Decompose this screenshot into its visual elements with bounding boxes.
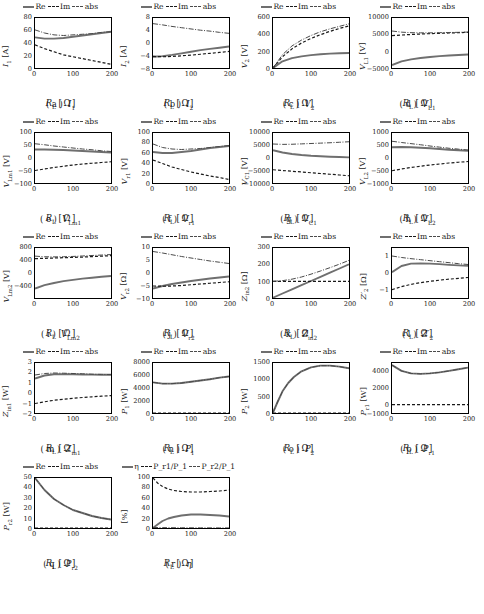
legend-swatch-dashed-icon <box>286 121 297 122</box>
subplot-j: ReImabsVr2 [Ω]−10−505100100200RL [ Ω ]( … <box>118 230 239 345</box>
legend-swatch-dashed-icon <box>48 236 59 237</box>
legend-p: ReImabs <box>357 345 478 358</box>
legend-label: Im <box>60 2 70 11</box>
x-tick-label: 100 <box>185 416 198 423</box>
x-tick-label: 200 <box>106 416 119 423</box>
legend-label: P_r2/P_1 <box>202 462 236 471</box>
y-tick-label: 1000 <box>372 129 389 136</box>
legend-entry-1: Re <box>23 2 46 11</box>
legend-entry-2: P_r1/P_1 <box>141 462 187 471</box>
subplot-caption-o: ( o ) P2 <box>238 444 359 456</box>
legend-entry-1: Re <box>23 232 46 241</box>
legend-i: ReImabs <box>0 230 121 243</box>
legend-d: ReImabs <box>357 0 478 13</box>
legend-entry-2: Im <box>48 232 71 241</box>
y-tick-label: 400 <box>19 257 32 264</box>
x-tick-label: 200 <box>224 531 237 538</box>
legend-label: Im <box>298 232 308 241</box>
x-ticks-a: 0100200 <box>34 70 112 80</box>
legend-entry-1: η <box>122 462 139 471</box>
subplot-b: ReImabsI2 [A]−8−40480100200RL [ Ω ]( b )… <box>118 0 239 115</box>
legend-entry-2: Im <box>48 347 71 356</box>
x-tick-label: 100 <box>67 531 80 538</box>
legend-entry-2: Im <box>48 462 71 471</box>
y-tick-label: 200 <box>257 261 270 268</box>
legend-l: ReImabs <box>357 230 478 243</box>
subplot-c: ReImabsV2 [V]02004006000100200RL [ Ω ]( … <box>238 0 359 115</box>
legend-entry-1: Re <box>23 117 46 126</box>
y-ticks-b: −8−4048 <box>118 17 152 69</box>
legend-entry-2: Im <box>286 117 309 126</box>
x-ticks-i: 0100200 <box>34 300 112 310</box>
x-tick-label: 100 <box>424 301 437 308</box>
x-tick-label: 0 <box>389 186 393 193</box>
x-tick-label: 200 <box>224 416 237 423</box>
subplot-caption-b: ( b ) I2 <box>118 99 239 111</box>
y-tick-label: −2 <box>22 411 32 418</box>
y-tick-label: 800 <box>19 244 32 251</box>
axes-frame-l <box>391 247 469 299</box>
legend-r: ηP_r1/P_1P_r2/P_1 <box>118 460 239 473</box>
legend-swatch-dashdot-icon <box>310 121 321 122</box>
legend-entry-1: Re <box>261 347 284 356</box>
plot-area-d: VL1 [V]−500005000100000100200RL [ Ω ] <box>357 13 478 85</box>
y-tick-label: 40 <box>142 160 150 167</box>
y-tick-label: −5000 <box>367 66 389 73</box>
legend-label: Im <box>60 117 70 126</box>
y-tick-label: 0 <box>385 48 389 55</box>
x-tick-label: 0 <box>32 416 36 423</box>
plot-area-r: [%]0204060801000100200RL [ Ω ] <box>118 473 239 545</box>
subplot-m: ReImabsZin1 [W]−2−101230100200RL [ Ω ]( … <box>0 345 121 460</box>
subplot-caption-k: ( k ) Zin2 <box>238 329 359 341</box>
x-tick-label: 200 <box>344 416 357 423</box>
axes-frame-j <box>152 247 230 299</box>
y-tick-label: 10 <box>24 515 32 522</box>
legend-entry-2: Im <box>166 347 189 356</box>
legend-swatch-solid-icon <box>141 6 152 8</box>
legend-swatch-solid-icon <box>141 236 152 238</box>
legend-entry-2: Im <box>405 117 428 126</box>
legend-entry-1: Re <box>261 232 284 241</box>
legend-swatch-dashed-icon <box>48 6 59 7</box>
legend-swatch-dashed-icon <box>166 6 177 7</box>
legend-entry-1: Re <box>261 2 284 11</box>
y-ticks-p: −1000020004000 <box>357 362 391 414</box>
x-ticks-p: 0100200 <box>391 415 469 425</box>
y-ticks-e: −100−50050100 <box>0 132 34 184</box>
legend-label: abs <box>203 347 216 356</box>
legend-q: ReImabs <box>0 460 121 473</box>
x-tick-label: 100 <box>67 416 80 423</box>
y-tick-label: 40 <box>24 484 32 491</box>
y-tick-label: 6000 <box>133 372 150 379</box>
x-tick-label: 200 <box>463 301 476 308</box>
axes-frame-k <box>272 247 350 299</box>
legend-entry-3: abs <box>190 117 216 126</box>
x-tick-label: 100 <box>185 71 198 78</box>
y-tick-label: 60 <box>142 495 150 502</box>
legend-label: abs <box>203 232 216 241</box>
plot-area-o: P2 [W]0500100015000100200RL [ Ω ] <box>238 358 359 430</box>
legend-swatch-dashed-icon <box>48 351 59 352</box>
legend-swatch-solid-icon <box>23 351 34 353</box>
legend-entry-3: abs <box>190 2 216 11</box>
legend-swatch-solid-icon <box>23 6 34 8</box>
y-tick-label: −8 <box>140 66 150 73</box>
legend-swatch-dashed-icon <box>286 6 297 7</box>
y-ticks-l: −101 <box>357 247 391 299</box>
y-tick-label: 8000 <box>133 359 150 366</box>
legend-label: Re <box>273 2 283 11</box>
legend-swatch-dashdot-icon <box>190 121 201 122</box>
legend-label: Re <box>392 117 402 126</box>
plot-area-b: I2 [A]−8−40480100200RL [ Ω ] <box>118 13 239 85</box>
y-tick-label: 0 <box>146 270 150 277</box>
y-ticks-n: 02000400060008000 <box>118 362 152 414</box>
x-tick-label: 0 <box>150 71 154 78</box>
y-tick-label: 2 <box>28 369 32 376</box>
y-tick-label: −1 <box>22 400 32 407</box>
legend-label: Re <box>35 347 45 356</box>
legend-label: abs <box>323 2 336 11</box>
legend-swatch-dashdot-icon <box>310 351 321 352</box>
legend-entry-3: abs <box>72 117 98 126</box>
x-ticks-f: 0100200 <box>152 185 230 195</box>
legend-label: Im <box>178 347 188 356</box>
